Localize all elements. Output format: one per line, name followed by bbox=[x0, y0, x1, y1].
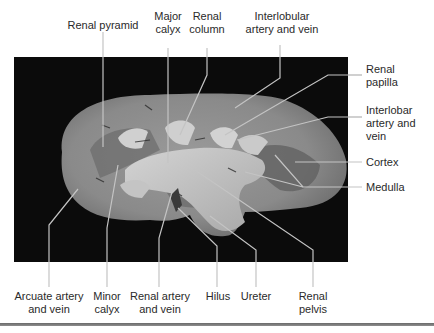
label-major-calyx: Major calyx bbox=[154, 10, 182, 36]
label-ureter: Ureter bbox=[241, 290, 272, 303]
label-renal-artery: Renal artery and vein bbox=[130, 290, 190, 316]
label-interlobar: Interlobar artery and vein bbox=[366, 104, 416, 143]
label-minor-calyx: Minor calyx bbox=[93, 290, 121, 316]
label-hilus: Hilus bbox=[206, 290, 230, 303]
label-renal-pyramid: Renal pyramid bbox=[68, 19, 139, 32]
label-renal-papilla: Renal papilla bbox=[366, 63, 398, 89]
bottom-rule bbox=[0, 323, 434, 326]
kidney-diagram: Renal pyramid Major calyx Renal column I… bbox=[0, 0, 434, 333]
label-cortex: Cortex bbox=[366, 156, 398, 169]
label-medulla: Medulla bbox=[366, 181, 405, 194]
label-renal-column: Renal column bbox=[189, 10, 224, 36]
label-renal-pelvis: Renal pelvis bbox=[299, 290, 328, 316]
label-interlobular: Interlobular artery and vein bbox=[246, 10, 319, 36]
label-arcuate: Arcuate artery and vein bbox=[14, 290, 83, 316]
